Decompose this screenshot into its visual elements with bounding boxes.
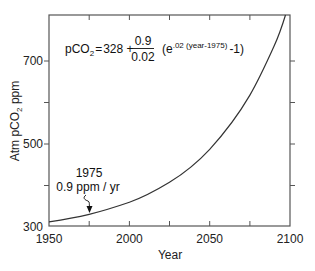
- svg-text:0.9 ppm / yr: 0.9 ppm / yr: [56, 180, 119, 194]
- svg-text:(e.02 (year-1975)-1): (e.02 (year-1975)-1): [162, 41, 244, 56]
- x-tick-1950: 1950: [36, 232, 63, 246]
- formula-denominator: 0.02: [131, 50, 155, 64]
- x-ticks-bottom: [89, 221, 250, 226]
- svg-text:pCO2=328 +: pCO2=328 +: [65, 42, 134, 58]
- annotation-arrow-line: [84, 195, 89, 207]
- formula: pCO2=328 + 0.9 0.02 (e.02 (year-1975)-1): [65, 34, 244, 64]
- y-ticks-right: [290, 61, 295, 186]
- svg-text:1975: 1975: [76, 166, 103, 180]
- x-tick-2050: 2050: [196, 232, 223, 246]
- formula-numerator: 0.9: [135, 34, 152, 48]
- y-tick-500: 500: [23, 137, 43, 151]
- y-tick-700: 700: [23, 54, 43, 68]
- y-tick-300: 300: [23, 220, 43, 234]
- x-tick-2000: 2000: [116, 232, 143, 246]
- x-ticks-top: [89, 15, 250, 20]
- x-axis-label: Year: [158, 248, 182, 262]
- co2-chart: 1950 2000 2050 2100 300 500 700 Year Atm…: [0, 0, 315, 271]
- arrow-head-icon: [87, 206, 93, 213]
- y-ticks-left: [44, 61, 49, 186]
- annotation-1975: 1975 0.9 ppm / yr: [56, 166, 119, 213]
- y-axis-label: Atm pCO2 ppm: [8, 81, 24, 161]
- x-tick-2100: 2100: [277, 232, 304, 246]
